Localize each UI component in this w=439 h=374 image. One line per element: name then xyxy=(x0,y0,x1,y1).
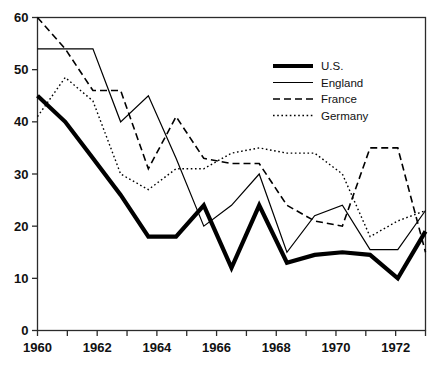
legend-label-u-s: U.S. xyxy=(321,60,343,72)
x-axis-tick-label: 1968 xyxy=(262,340,291,355)
chart-canvas: 0102030405060196019621964196619681970197… xyxy=(0,0,439,374)
x-axis-tick-label: 1972 xyxy=(381,340,410,355)
x-axis-tick-label: 1966 xyxy=(202,340,231,355)
x-axis-tick-label: 1960 xyxy=(23,340,52,355)
y-axis-tick-label: 30 xyxy=(14,167,28,182)
y-axis-tick-label: 40 xyxy=(14,114,28,129)
legend-label-germany: Germany xyxy=(321,110,369,122)
line-chart: 0102030405060196019621964196619681970197… xyxy=(0,0,439,374)
y-axis-tick-label: 10 xyxy=(14,271,28,286)
y-axis-tick-label: 20 xyxy=(14,219,28,234)
series-line-france xyxy=(38,18,426,253)
x-axis-tick-label: 1970 xyxy=(322,340,351,355)
legend-label-england: England xyxy=(321,77,363,89)
legend-label-france: France xyxy=(321,93,357,105)
x-axis-tick-label: 1964 xyxy=(142,340,172,355)
y-axis-tick-label: 60 xyxy=(14,10,28,25)
series-line-england xyxy=(38,49,426,252)
plot-frame xyxy=(38,18,426,331)
y-axis-tick-label: 50 xyxy=(14,62,28,77)
series-line-u-s xyxy=(38,96,426,279)
x-axis-tick-label: 1962 xyxy=(83,340,112,355)
y-axis-tick-label: 0 xyxy=(21,323,28,338)
